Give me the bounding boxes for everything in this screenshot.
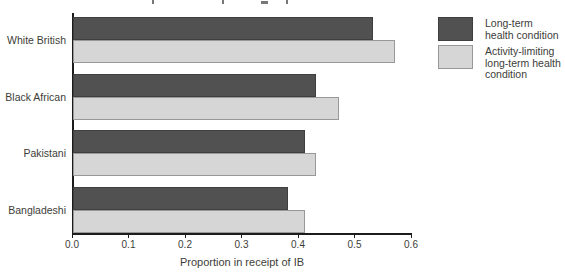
- category-label-white-british: White British: [0, 33, 66, 47]
- x-tick-mark-0.1: [128, 233, 129, 238]
- bars-layer: [73, 14, 418, 234]
- legend: Long-term health condition Activity-limi…: [438, 17, 563, 85]
- x-tick-mark-0.5: [354, 233, 355, 238]
- legend-swatch-long-term-health-condition: [438, 17, 473, 41]
- cropped-title-fragment: [222, 0, 224, 4]
- x-tick-label-0.1: 0.1: [114, 239, 144, 251]
- bar-long-term-health-condition-bangladeshi: [73, 187, 288, 210]
- bar-activity-limiting-long-term-health-condition-bangladeshi: [73, 210, 305, 233]
- x-tick-label-0.3: 0.3: [227, 239, 257, 251]
- category-label-black-african: Black African: [0, 90, 66, 104]
- bar-long-term-health-condition-black-african: [73, 74, 316, 97]
- bar-activity-limiting-long-term-health-condition-black-african: [73, 97, 339, 120]
- x-tick-label-0.6: 0.6: [396, 239, 426, 251]
- bar-long-term-health-condition-pakistani: [73, 130, 305, 153]
- legend-item-long-term-health-condition: Long-term health condition: [438, 17, 563, 41]
- x-tick-mark-0.3: [241, 233, 242, 238]
- category-label-pakistani: Pakistani: [0, 146, 66, 160]
- x-tick-mark-0.6: [411, 233, 412, 238]
- cropped-title-fragment: [261, 1, 268, 4]
- x-tick-label-0.5: 0.5: [340, 239, 370, 251]
- x-tick-label-0.4: 0.4: [283, 239, 313, 251]
- bar-long-term-health-condition-white-british: [73, 17, 373, 40]
- x-tick-label-0.2: 0.2: [170, 239, 200, 251]
- bar-activity-limiting-long-term-health-condition-white-british: [73, 40, 395, 63]
- cropped-title-fragment: [152, 0, 154, 4]
- legend-item-activity-limiting-long-term-health-condition: Activity-limiting long-term health condi…: [438, 45, 563, 81]
- x-tick-mark-0.4: [298, 233, 299, 238]
- cropped-title-fragment: [286, 0, 288, 4]
- legend-label-activity-limiting-long-term-health-condition: Activity-limiting long-term health condi…: [485, 45, 561, 81]
- category-label-bangladeshi: Bangladeshi: [0, 203, 66, 217]
- legend-label-long-term-health-condition: Long-term health condition: [485, 17, 559, 41]
- x-tick-mark-0.2: [185, 233, 186, 238]
- x-axis-title: Proportion in receipt of IB: [72, 256, 412, 268]
- legend-swatch-activity-limiting-long-term-health-condition: [438, 45, 473, 69]
- bar-activity-limiting-long-term-health-condition-pakistani: [73, 153, 316, 176]
- bar-chart-figure: 0.00.10.20.30.40.50.6 White BritishBlack…: [0, 0, 565, 278]
- x-tick-mark-0.0: [72, 233, 73, 238]
- x-tick-label-0.0: 0.0: [57, 239, 87, 251]
